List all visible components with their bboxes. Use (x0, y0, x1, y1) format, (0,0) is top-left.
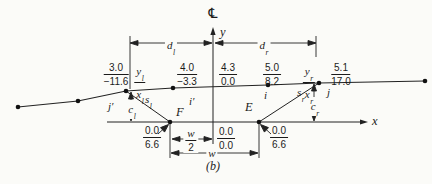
dim-label-w: w (206, 147, 217, 159)
station-fraction-right-catch: 5.1 17.0 (331, 62, 350, 87)
y-axis-label: y (220, 25, 226, 40)
y-axis-arrow-icon (210, 27, 215, 35)
slope-label-s-left: sl (145, 90, 152, 109)
grade-fraction-centerline: 0.0 0.0 (217, 126, 235, 151)
ground-point-i-prime-dot (171, 86, 176, 91)
slope-stake-diagram: ℄ y x dl dr sl sr cl cr w 2 w 3.0 −11.6 … (0, 0, 432, 184)
point-label-i: i (264, 89, 267, 101)
station-fraction-i-prime: 4.0 −3.3 (177, 62, 197, 87)
ground-point-dot (423, 79, 428, 84)
centerline-symbol: ℄ (209, 5, 218, 21)
grade-fraction-F: 0.0 6.6 (143, 125, 161, 150)
point-label-j-prime: j′ (108, 100, 113, 112)
station-fraction-centerline: 4.3 0.0 (219, 62, 237, 87)
point-label-j: j (327, 86, 330, 98)
x-axis-label: x (372, 114, 378, 129)
point-label-F: F (176, 105, 184, 120)
hinge-point-E-dot (257, 120, 262, 125)
station-fraction-yl-xl: yl xl (134, 61, 145, 104)
catch-point-right-dot (317, 81, 322, 86)
station-fraction-i: 5.0 8.2 (263, 62, 281, 87)
point-label-i-prime: i′ (189, 95, 194, 107)
leader-arrows (158, 122, 271, 134)
station-fraction-left-catch: 3.0 −11.6 (104, 62, 129, 87)
dim-label-d-right: dr (258, 36, 271, 55)
dim-label-d-left: dl (165, 36, 177, 55)
x-axis-arrow-icon (360, 119, 368, 124)
ground-point-dot (76, 99, 81, 104)
hinge-point-F-dot (168, 120, 173, 125)
dim-label-w-half: w 2 (183, 127, 198, 153)
figure-caption: (b) (206, 159, 220, 174)
point-label-E: E (245, 100, 253, 115)
ground-point-dot (16, 105, 21, 110)
catch-point-left-dot (124, 89, 129, 94)
station-fraction-yr-xr: yr xr (303, 61, 315, 104)
grade-fraction-E: 0.0 6.6 (270, 125, 288, 150)
